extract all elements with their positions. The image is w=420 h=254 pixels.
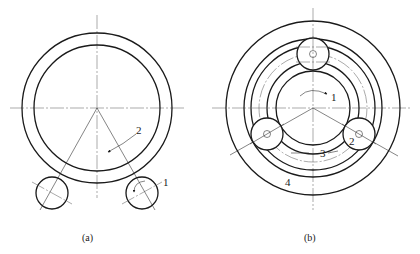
panel-b: 1 2 3 4 (b): [212, 8, 410, 244]
planet-left: [250, 118, 284, 150]
label-1: 1: [331, 91, 337, 103]
panel-a: 2 1 (a): [10, 15, 185, 244]
caption-a: (a): [82, 232, 93, 244]
label-4: 4: [285, 176, 291, 188]
rotation-arrow-2-icon: [108, 134, 136, 152]
label-2: 2: [349, 135, 355, 147]
planet-right: [342, 118, 376, 150]
caption-b: (b): [304, 232, 316, 244]
label-3: 3: [320, 147, 326, 159]
diagram-canvas: 2 1 (a): [0, 0, 420, 254]
rotation-arrow-1-icon: [134, 181, 145, 192]
label-1: 1: [163, 176, 169, 188]
label-2: 2: [136, 124, 142, 136]
rotation-arrow-1-icon: [300, 90, 327, 96]
